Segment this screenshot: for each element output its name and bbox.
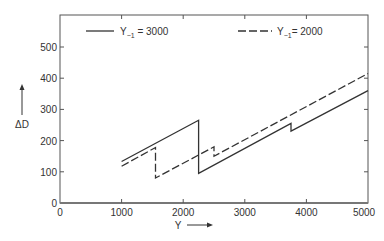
- x-axis-label: Y: [175, 220, 213, 231]
- x-tick-label: 5000: [353, 207, 376, 218]
- y-tick-label: 300: [40, 104, 57, 115]
- y-axis-label: ΔD: [15, 84, 29, 130]
- series-solid-line: [122, 91, 368, 174]
- y-tick-label: 100: [40, 167, 57, 178]
- arrowhead-icon: [207, 223, 213, 228]
- plot-frame: [60, 15, 368, 203]
- series-dashed-line: [122, 74, 368, 179]
- x-tick-label: 2000: [172, 207, 195, 218]
- legend-item-dashed: Y−1= 2000: [238, 26, 323, 39]
- legend-item-solid: Y−1 = 3000: [86, 26, 169, 39]
- svg-text:ΔD: ΔD: [15, 119, 29, 130]
- y-ticks: [60, 47, 368, 172]
- x-ticks: [122, 15, 307, 203]
- svg-text:Y−1 = 3000: Y−1 = 3000: [120, 26, 169, 39]
- x-tick-label: 1000: [110, 207, 133, 218]
- legend: Y−1 = 3000 Y−1= 2000: [86, 26, 323, 39]
- chart: 0 100 200 300 400 500 0 1000 2000 3000 4…: [0, 0, 384, 241]
- x-tick-label: 3000: [234, 207, 257, 218]
- x-tick-label: 4000: [295, 207, 318, 218]
- y-tick-label: 200: [40, 136, 57, 147]
- svg-text:Y−1= 2000: Y−1= 2000: [277, 26, 323, 39]
- x-tick-label: 0: [57, 207, 63, 218]
- svg-text:Y: Y: [175, 220, 182, 231]
- y-tick-label: 500: [40, 42, 57, 53]
- arrowhead-icon: [20, 84, 25, 90]
- y-tick-label: 400: [40, 73, 57, 84]
